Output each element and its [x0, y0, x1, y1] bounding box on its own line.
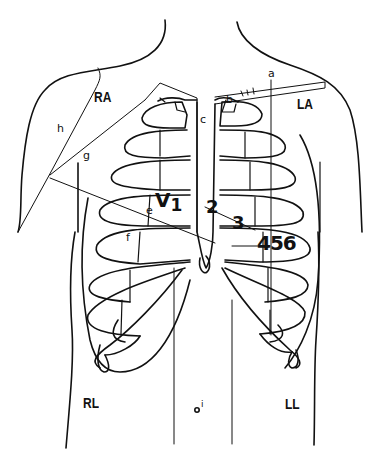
- letter-f: f: [126, 232, 130, 243]
- sternum: [197, 102, 215, 268]
- letter-e: e: [146, 205, 153, 216]
- right-flank: [66, 232, 75, 448]
- umbilicus-marker: [195, 408, 199, 412]
- letter-c: c: [200, 114, 206, 125]
- letter-h: h: [57, 123, 64, 134]
- label-rl: RL: [83, 395, 99, 410]
- label-v456: 456: [257, 233, 296, 253]
- torso-diagram: [0, 0, 392, 464]
- letter-b: b: [226, 94, 233, 105]
- label-ll: LL: [285, 396, 300, 411]
- label-ra: RA: [94, 89, 111, 104]
- label-v: V: [155, 188, 170, 212]
- right-shoulder-outline: [18, 20, 165, 232]
- label-v1-sub: 1: [170, 195, 182, 215]
- label-la: LA: [297, 96, 313, 111]
- left-neck-shoulder-outline: [237, 22, 362, 232]
- label-v2: 2: [206, 198, 219, 216]
- letter-g: g: [83, 150, 90, 161]
- letter-i: i: [201, 400, 204, 409]
- letter-a: a: [268, 68, 275, 79]
- label-v1: V1: [155, 190, 182, 210]
- label-v3: 3: [232, 214, 245, 232]
- right-clav-joint: [160, 98, 185, 112]
- line-g: [50, 100, 145, 175]
